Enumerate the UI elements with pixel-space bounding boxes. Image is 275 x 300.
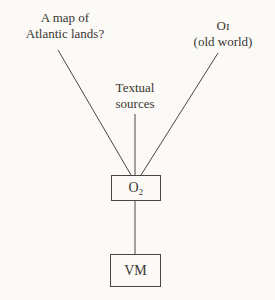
textual-line2: sources (100, 96, 170, 112)
o2-label: O₂ (129, 180, 144, 196)
textual-line1: Textual (100, 80, 170, 96)
edge-o1-to-o2 (141, 53, 218, 175)
edge-atlantic-to-o2 (58, 50, 131, 175)
node-o1: Oɪ (old world) (178, 18, 268, 50)
atlantic-map-line2: Atlantic lands? (5, 26, 125, 42)
node-textual-sources: Textual sources (100, 80, 170, 112)
o1-line2: (old world) (178, 34, 268, 50)
o1-line1: Oɪ (178, 18, 268, 34)
node-atlantic-map: A map of Atlantic lands? (5, 10, 125, 42)
vm-label: VM (124, 263, 147, 279)
node-o2: O₂ (111, 175, 161, 201)
atlantic-map-line1: A map of (5, 10, 125, 26)
node-vm: VM (110, 254, 161, 287)
